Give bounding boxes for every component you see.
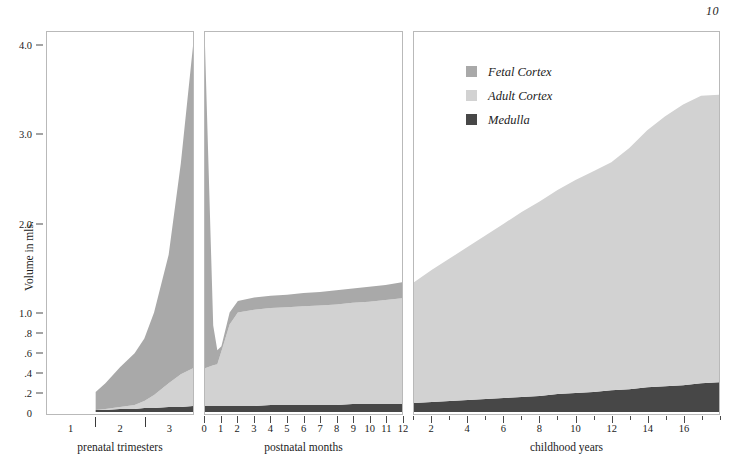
x-tick-mark: [270, 416, 271, 423]
y-tick-mark: [36, 333, 43, 334]
panel-postnatal: [204, 31, 403, 415]
page-number: 10: [706, 4, 719, 19]
x-tick-label: 7: [317, 423, 322, 434]
area-adult-cortex: [414, 95, 719, 403]
y-tick-label: 0: [27, 408, 32, 419]
y-tick-label: 4.0: [19, 40, 32, 51]
legend-swatch-icon: [466, 66, 477, 77]
x-tick-label: 16: [679, 423, 690, 434]
x-minor-tick-mark: [630, 416, 631, 420]
x-tick-mark: [337, 416, 338, 423]
x-tick-label: 4: [465, 423, 470, 434]
legend-label: Adult Cortex: [488, 86, 552, 106]
x-minor-tick-mark: [557, 416, 558, 420]
x-minor-tick-mark: [594, 416, 595, 420]
x-tick-mark: [237, 416, 238, 423]
x-axis-caption: postnatal months: [204, 441, 403, 453]
x-axis-caption: prenatal trimesters: [46, 441, 194, 453]
x-tick-label: 3: [167, 423, 172, 434]
x-tick-label: 8: [334, 423, 339, 434]
area-fetal-cortex: [96, 46, 193, 410]
x-tick-mark: [576, 416, 577, 423]
x-minor-tick-mark: [449, 416, 450, 420]
x-tick-label: 10: [365, 423, 376, 434]
x-tick-mark: [221, 416, 222, 423]
y-tick-label: 1.0: [19, 308, 32, 319]
x-tick-mark: [467, 416, 468, 423]
x-tick-mark: [503, 416, 504, 423]
x-tick-label: 12: [398, 423, 409, 434]
x-axis-caption: childhood years: [413, 441, 720, 453]
x-minor-tick-mark: [521, 416, 522, 420]
x-tick-label: 3: [251, 423, 256, 434]
x-tick-mark: [320, 416, 321, 423]
legend-label: Fetal Cortex: [488, 62, 552, 82]
panel-prenatal: [46, 31, 194, 415]
x-tick-mark: [254, 416, 255, 423]
x-tick-mark: [431, 416, 432, 423]
x-tick-label: 8: [537, 423, 542, 434]
x-minor-tick-mark: [702, 416, 703, 420]
y-tick-mark: [36, 313, 43, 314]
y-tick-label: 3.0: [19, 129, 32, 140]
x-minor-tick-mark: [485, 416, 486, 420]
x-group-separator: [145, 417, 146, 427]
panel-childhood: [413, 31, 720, 415]
y-tick-mark: [36, 45, 43, 46]
x-tick-label: 4: [268, 423, 273, 434]
y-tick-mark: [36, 373, 43, 374]
y-tick-label: .4: [24, 368, 32, 379]
y-tick-mark: [36, 134, 43, 135]
y-tick-mark: [36, 223, 43, 224]
x-tick-label: 2: [428, 423, 433, 434]
x-tick-mark: [403, 416, 404, 423]
x-axis-prenatal: 123prenatal trimesters: [46, 416, 194, 461]
x-tick-label: 10: [570, 423, 581, 434]
x-tick-label: 6: [501, 423, 506, 434]
y-tick-mark: [36, 353, 43, 354]
x-minor-tick-mark: [666, 416, 667, 420]
x-tick-mark: [684, 416, 685, 423]
legend-swatch-icon: [466, 114, 477, 125]
x-tick-label: 1: [218, 423, 223, 434]
x-axis-postnatal: 0123456789101112postnatal months: [204, 416, 403, 461]
y-tick-mark: [36, 393, 43, 394]
x-tick-label: 12: [606, 423, 617, 434]
x-tick-mark: [612, 416, 613, 423]
x-tick-label: 1: [68, 423, 73, 434]
figure-root: 10 Volume in mls. 4.03.02.01.0.8.6.4.20 …: [0, 0, 733, 461]
legend-swatch-icon: [466, 90, 477, 101]
x-tick-label: 5: [284, 423, 289, 434]
x-group-separator: [95, 417, 96, 427]
x-tick-row: [413, 416, 720, 425]
x-tick-mark: [287, 416, 288, 423]
x-tick-mark: [204, 416, 205, 423]
x-tick-label: 14: [643, 423, 654, 434]
x-tick-mark: [386, 416, 387, 423]
x-tick-label: 9: [351, 423, 356, 434]
x-tick-label: 2: [235, 423, 240, 434]
x-tick-label: 0: [201, 423, 206, 434]
legend-label: Medulla: [488, 110, 530, 130]
x-tick-label: 2: [117, 423, 122, 434]
x-tick-mark: [648, 416, 649, 423]
x-tick-label: 11: [381, 423, 391, 434]
x-axis-childhood: 246810121416childhood years: [413, 416, 720, 461]
x-minor-tick-mark: [413, 416, 414, 420]
x-tick-mark: [539, 416, 540, 423]
y-tick-label: .2: [24, 388, 32, 399]
x-tick-mark: [353, 416, 354, 423]
y-tick-label: .8: [24, 328, 32, 339]
y-tick-label: 2.0: [19, 218, 32, 229]
x-tick-mark: [304, 416, 305, 423]
y-tick-label: .6: [24, 348, 32, 359]
x-minor-tick-mark: [720, 416, 721, 420]
x-tick-label: 6: [301, 423, 306, 434]
y-axis-ticks: 4.03.02.01.0.8.6.4.20: [0, 0, 46, 461]
x-tick-mark: [370, 416, 371, 423]
